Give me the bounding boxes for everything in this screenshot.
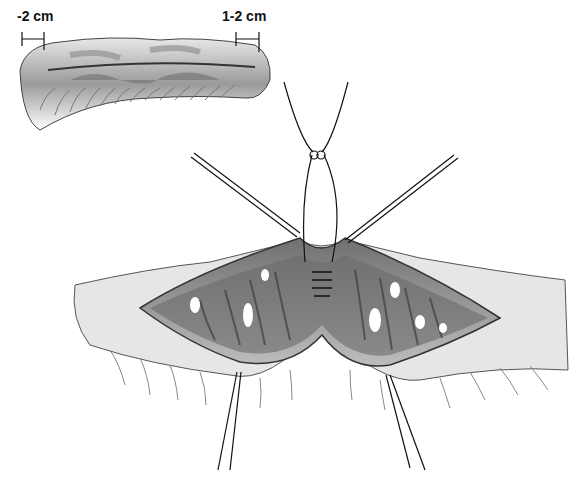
left-margin-label: -2 cm [17, 8, 54, 24]
main-tissue [74, 238, 568, 410]
right-margin-label: 1-2 cm [222, 8, 266, 24]
surgical-illustration [0, 0, 573, 485]
inset-specimen [20, 32, 270, 130]
